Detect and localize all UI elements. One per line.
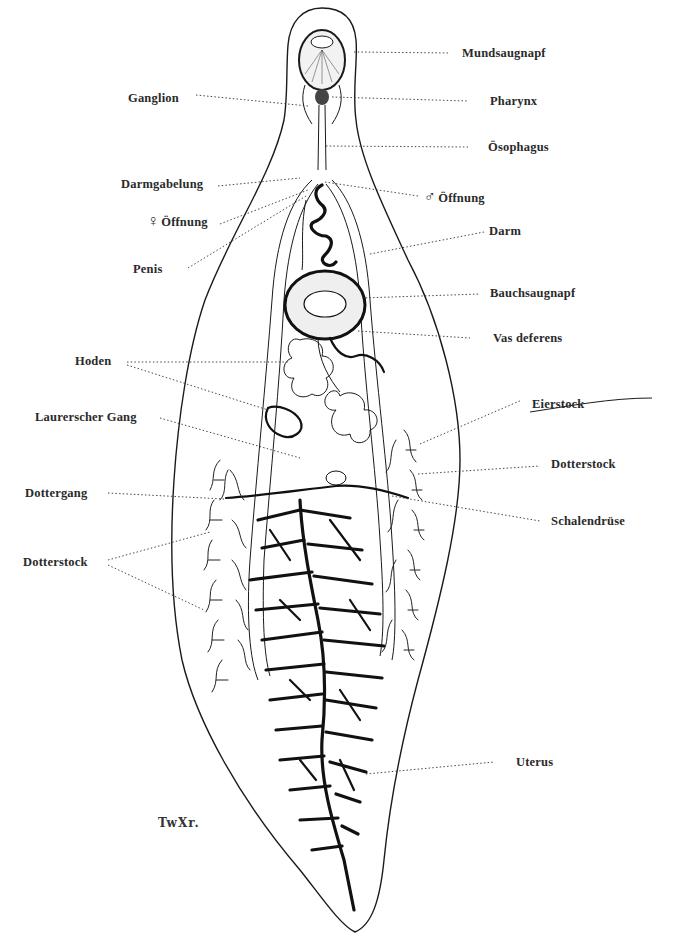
- fluke-diagram: [0, 0, 681, 945]
- male-symbol-icon: ♂: [424, 188, 436, 205]
- label-darmgabelung: Darmgabelung: [121, 177, 203, 192]
- oesophagus: [318, 105, 326, 170]
- label-eierstock: Eierstock: [532, 397, 584, 412]
- label-female-opening: ♀Öffnung: [147, 212, 208, 230]
- ovary: [266, 407, 301, 437]
- ventral-sucker-opening: [304, 291, 346, 317]
- label-dottergang: Dottergang: [25, 486, 87, 501]
- label-hoden: Hoden: [75, 354, 111, 369]
- shell-gland: [326, 471, 346, 485]
- vitelline-duct: [226, 486, 408, 498]
- label-uterus: Uterus: [516, 755, 553, 770]
- body-outline: [172, 8, 460, 932]
- label-male-opening: ♂Öffnung: [424, 188, 485, 206]
- label-dotterstock-right: Dotterstock: [551, 457, 616, 472]
- intestine-right: [332, 180, 395, 660]
- artist-signature: TwXr.: [158, 816, 200, 830]
- label-penis: Penis: [133, 262, 162, 277]
- intestine-right-inner: [326, 184, 383, 656]
- testis-anterior: [284, 339, 333, 397]
- uterus: [250, 500, 384, 910]
- label-pharynx: Pharynx: [490, 94, 537, 109]
- oral-sucker-opening: [311, 36, 333, 48]
- cirrus: [311, 185, 336, 265]
- label-ganglion: Ganglion: [128, 91, 179, 106]
- vitellaria-right: [382, 430, 424, 660]
- label-dotterstock-left: Dotterstock: [23, 555, 88, 570]
- pharynx: [315, 89, 329, 105]
- label-darm: Darm: [489, 224, 521, 239]
- label-vas-deferens: Vas deferens: [493, 331, 562, 346]
- female-symbol-icon: ♀: [147, 212, 159, 229]
- vitellaria-left: [204, 460, 250, 692]
- label-mundsaugnapf: Mundsaugnapf: [462, 46, 546, 61]
- label-schalendruese: Schalendrüse: [551, 514, 625, 529]
- label-laurerscher-gang: Laurerscher Gang: [35, 410, 137, 425]
- label-oesophagus: Ösophagus: [488, 140, 549, 155]
- label-bauchsaugnapf: Bauchsaugnapf: [490, 286, 575, 301]
- label-female-opening-text: Öffnung: [161, 215, 208, 229]
- label-male-opening-text: Öffnung: [438, 191, 485, 205]
- figure-caption-cropped: [0, 938, 681, 945]
